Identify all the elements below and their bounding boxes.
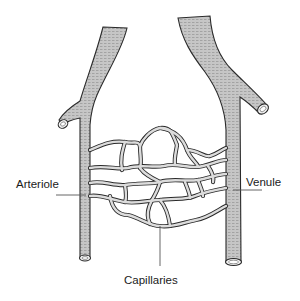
venule-label: Venule	[246, 177, 281, 189]
venule-vessel	[178, 16, 270, 266]
capillaries-label: Capillaries	[124, 275, 178, 287]
capillary-bed-diagram	[0, 0, 300, 301]
arteriole-label: Arteriole	[16, 179, 59, 191]
capillary-network	[90, 128, 226, 227]
arteriole-vessel	[57, 27, 127, 261]
venule-trunk	[178, 16, 266, 262]
